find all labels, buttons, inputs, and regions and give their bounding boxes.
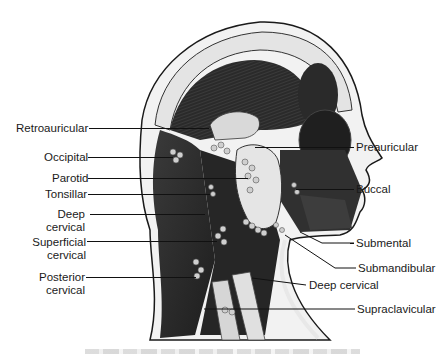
label-submental: Submental xyxy=(356,237,411,250)
label-superficial-cervical: Superficial cervical xyxy=(22,236,86,262)
leader-buccal xyxy=(296,189,354,190)
leader-superficial-cervical xyxy=(87,241,217,242)
leader-posterior-cervical xyxy=(86,277,196,278)
label-occipital: Occipital xyxy=(44,151,88,164)
leader-deep-cervical-left xyxy=(90,214,205,215)
label-parotid: Parotid xyxy=(52,172,88,185)
leader-occipital xyxy=(88,157,173,158)
label-buccal: Buccal xyxy=(356,183,391,196)
label-preauricular: Preauricular xyxy=(356,141,418,154)
label-submandibular: Submandibular xyxy=(358,262,435,275)
label-retroauricular: Retroauricular xyxy=(16,122,88,135)
leader-preauricular xyxy=(255,147,354,148)
leader-submental xyxy=(350,243,354,244)
leader-tonsillar xyxy=(88,194,210,195)
figure-caption xyxy=(85,349,360,354)
label-posterior-cervical: Posterior cervical xyxy=(22,271,85,297)
label-tonsillar: Tonsillar xyxy=(45,188,87,201)
label-supraclavicular: Supraclavicular xyxy=(357,303,436,316)
leader-parotid xyxy=(88,178,248,179)
lymph-node-diagram: Retroauricular Occipital Parotid Tonsill… xyxy=(0,0,445,358)
label-deep-cervical-right: Deep cervical xyxy=(309,279,379,292)
leader-retroauricular xyxy=(89,128,209,129)
label-deep-cervical-left: Deep cervical xyxy=(30,208,85,234)
